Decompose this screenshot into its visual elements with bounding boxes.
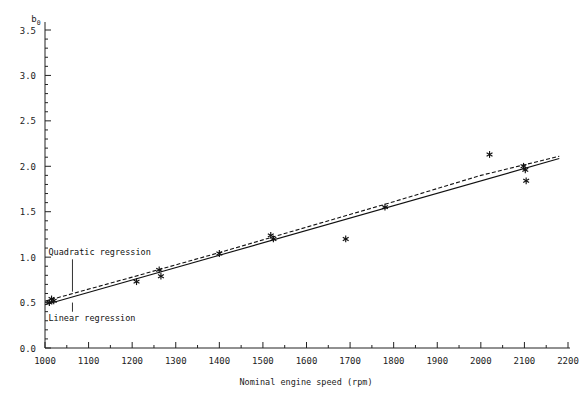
x-tick-label: 1200 [121,356,143,366]
x-tick-label: 2100 [514,356,536,366]
y-tick-label: 1.0 [20,253,36,263]
x-tick-label: 1800 [383,356,405,366]
x-axis-title: Nominal engine speed (rpm) [239,377,372,387]
x-tick-label: 1400 [208,356,230,366]
x-tick-label: 1300 [165,356,187,366]
y-tick-label: 3.0 [20,71,36,81]
annotation-label: Quadratic regression [48,247,150,257]
x-tick-label: 2000 [470,356,492,366]
y-tick-label: 2.0 [20,162,36,172]
x-tick-label: 1500 [252,356,274,366]
chart-canvas: 0.00.51.01.52.02.53.03.5 100011001200130… [0,0,588,408]
x-tick-label: 1100 [78,356,100,366]
x-tick-label: 2200 [557,356,579,366]
y-tick-label: 3.5 [20,26,36,36]
x-tick-label: 1700 [339,356,361,366]
y-tick-label: 0.0 [20,344,36,354]
x-tick-label: 1900 [426,356,448,366]
scatter-plot: 0.00.51.01.52.02.53.03.5 100011001200130… [0,0,588,408]
y-tick-label: 0.5 [20,298,36,308]
annotation-label: Linear regression [48,313,135,323]
y-tick-label: 1.5 [20,207,36,217]
y-tick-label: 2.5 [20,116,36,126]
x-tick-label: 1600 [296,356,318,366]
x-tick-label: 1000 [34,356,56,366]
